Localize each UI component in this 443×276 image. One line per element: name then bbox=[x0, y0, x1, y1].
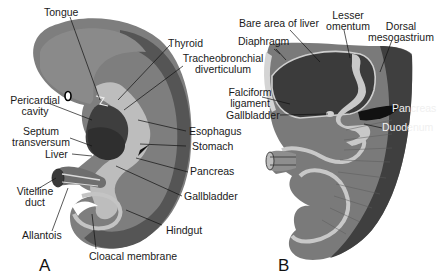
label-septum-transversum: Septum transversum bbox=[10, 126, 72, 148]
label-diaphragm: Diaphragm bbox=[238, 36, 289, 47]
label-line: diverticulum bbox=[195, 63, 251, 75]
label-bare-area-of-liver: Bare area of liver bbox=[239, 18, 319, 29]
panel-letter-a: A bbox=[39, 256, 50, 276]
label-line: ligament bbox=[230, 97, 270, 109]
label-hindgut: Hindgut bbox=[166, 225, 202, 236]
label-thyroid: Thyroid bbox=[168, 38, 203, 49]
label-pancreas: Pancreas bbox=[190, 166, 234, 177]
label-line: omentum bbox=[326, 20, 370, 32]
label-line: cavity bbox=[22, 105, 49, 117]
label-line: transversum bbox=[12, 136, 70, 148]
panel-b-drawing bbox=[264, 43, 412, 260]
label-tracheobronchial-diverticulum: Tracheobronchial diverticulum bbox=[176, 53, 270, 75]
label-esophagus: Esophagus bbox=[189, 126, 242, 137]
label-allantois: Allantois bbox=[22, 230, 62, 241]
label-duodenum: Duodenum bbox=[382, 122, 433, 133]
label-tongue: Tongue bbox=[44, 7, 78, 18]
label-falciform-ligament: Falciform ligament bbox=[220, 87, 280, 109]
label-gallbladder: Gallbladder bbox=[184, 191, 238, 202]
label-line: duct bbox=[25, 196, 45, 208]
label-pericardial-cavity: Pericardial cavity bbox=[10, 95, 60, 117]
label-line: mesogastrium bbox=[368, 31, 434, 43]
label-gallbladder-b: Gallbladder bbox=[226, 110, 280, 121]
label-cloacal-membrane: Cloacal membrane bbox=[89, 251, 177, 262]
label-pancreas-b: Pancreas bbox=[392, 103, 436, 114]
label-dorsal-mesogastrium: Dorsal mesogastrium bbox=[365, 21, 437, 43]
label-vitelline-duct: Vitelline duct bbox=[12, 186, 58, 208]
label-liver: Liver bbox=[45, 149, 68, 160]
label-stomach: Stomach bbox=[192, 141, 233, 152]
panel-letter-b: B bbox=[278, 256, 289, 276]
